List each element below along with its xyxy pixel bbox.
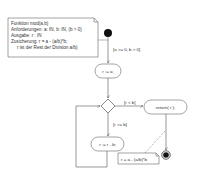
note-result-text: r = a - (a/b)*b bbox=[121, 157, 148, 162]
flow-loop-back bbox=[76, 106, 107, 167]
final-node bbox=[162, 151, 170, 159]
guard-start: [a >= 0, b > 0] bbox=[113, 47, 140, 52]
start-node bbox=[104, 29, 112, 37]
note-result-anchor bbox=[145, 131, 165, 153]
activity-return: return( r ); bbox=[144, 100, 187, 114]
activity-diagram: Funktion mod(a,b) Anforderungen: a: IN, … bbox=[0, 0, 197, 182]
note-line-4: Zusicherung: r = a - (a/b)*b; bbox=[11, 39, 67, 44]
activity-subtract: r := r - b; bbox=[91, 137, 124, 151]
decision-node bbox=[101, 99, 115, 113]
activity-init-label: r := a; bbox=[102, 69, 113, 74]
activity-subtract-label: r := r - b; bbox=[99, 142, 116, 147]
activity-return-label: return( r ); bbox=[156, 105, 176, 110]
note-result: r = a - (a/b)*b bbox=[118, 153, 159, 164]
guard-less: [r < b] bbox=[124, 100, 135, 105]
activity-init: r := a; bbox=[95, 64, 121, 78]
guard-greater-equal: [r >= b] bbox=[113, 122, 127, 127]
note-line-5: r ist der Rest der Division a/b) bbox=[17, 45, 78, 50]
note-line-3: Ausgabe: r : IN bbox=[11, 33, 42, 38]
note-main: Funktion mod(a,b) Anforderungen: a: IN, … bbox=[8, 18, 98, 57]
note-line-1: Funktion mod(a,b) bbox=[11, 21, 49, 26]
note-line-2: Anforderungen: a: IN, b: IN, (b > 0) bbox=[11, 27, 82, 32]
